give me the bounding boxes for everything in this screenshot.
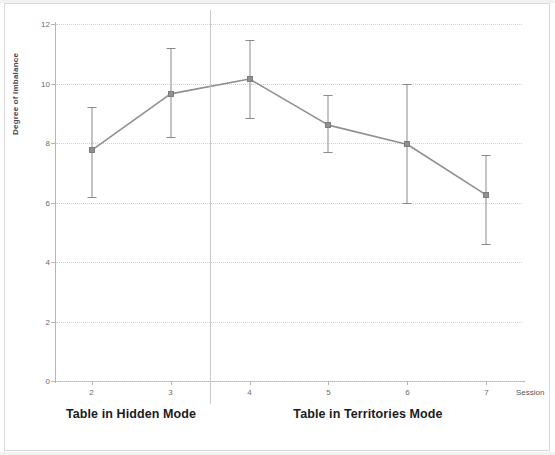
x-axis-tick-mark	[92, 381, 93, 385]
x-axis-tick-label: 2	[89, 388, 93, 397]
y-axis-tick-label: 12	[24, 20, 50, 29]
data-point-marker	[247, 76, 253, 82]
errorbar-cap	[245, 118, 254, 119]
scan-edge-top	[0, 0, 555, 3]
x-axis-tick-mark	[171, 381, 172, 385]
condition-label-territories-mode: Table in Territories Mode	[293, 407, 442, 421]
errorbar-cap	[403, 203, 412, 204]
errorbar-cap	[166, 48, 175, 49]
data-point-marker	[89, 147, 95, 153]
gridline	[56, 381, 522, 382]
condition-divider	[210, 10, 211, 404]
y-axis-tick-label: 8	[24, 139, 50, 148]
x-axis-tick-label: 3	[168, 388, 172, 397]
x-axis-tick-label: 6	[405, 388, 409, 397]
errorbar-cap	[245, 40, 254, 41]
x-axis-tick-label: 7	[484, 388, 488, 397]
errorbar-cap	[166, 137, 175, 138]
x-axis-tick-mark	[328, 381, 329, 385]
errorbar-cap	[482, 244, 491, 245]
errorbar-cap	[324, 95, 333, 96]
y-axis-tick-label: 6	[24, 198, 50, 207]
errorbar-cap	[324, 152, 333, 153]
data-point-marker	[404, 141, 410, 147]
errorbar-cap	[87, 107, 96, 108]
y-axis-title: Degree of Imbalance	[11, 53, 20, 135]
y-axis-tick-label: 0	[24, 377, 50, 386]
condition-label-hidden-mode: Table in Hidden Mode	[66, 407, 196, 421]
x-axis-title: Session	[516, 388, 544, 397]
series-line-path	[56, 24, 522, 381]
errorbar	[486, 155, 487, 244]
y-axis-tick-label: 10	[24, 79, 50, 88]
data-point-marker	[483, 192, 489, 198]
errorbar-cap	[87, 197, 96, 198]
x-axis-tick-mark	[407, 381, 408, 385]
x-axis-tick-mark	[250, 381, 251, 385]
data-point-marker	[325, 122, 331, 128]
figure-container: Degree of Imbalance Session 024681012 23…	[0, 0, 555, 455]
errorbar-cap	[403, 84, 412, 85]
data-point-marker	[168, 91, 174, 97]
y-axis-tick-label: 4	[24, 258, 50, 267]
errorbar-cap	[482, 155, 491, 156]
x-axis-tick-mark	[486, 381, 487, 385]
x-axis-tick-label: 5	[326, 388, 330, 397]
y-axis-tick-label: 2	[24, 317, 50, 326]
x-axis-tick-label: 4	[247, 388, 251, 397]
plot-area	[56, 24, 522, 381]
